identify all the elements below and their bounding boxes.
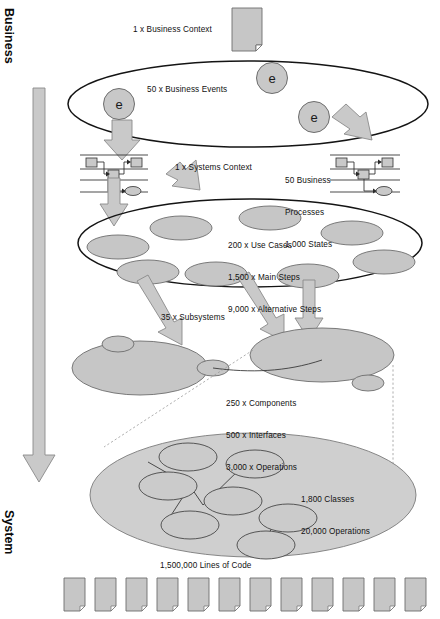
document-icon [250,578,271,611]
label-business-processes-line2: Processes [285,208,332,219]
document-icon [405,578,426,611]
axis-label-system-sub: (60,000 pages) [0,490,29,576]
label-subsystems: 35 x Subsystems [161,313,225,324]
label-classes-line1: 1,800 Classes [301,495,370,506]
document-icon [312,578,333,611]
event-to-process-arrow-right [332,104,372,140]
label-components-line3: 3,000 x Operations [226,463,297,474]
label-business-events: 50 x Business Events [147,85,227,96]
label-lines-of-code: 1,500,000 Lines of Code [160,561,252,572]
business-context-document-icon [232,8,262,51]
business-event-token: e [298,101,330,133]
business-to-system-arrow [23,88,55,482]
label-business-context: 1 x Business Context [133,25,212,36]
business-process-workflow-icon [330,155,400,196]
document-icon [95,578,116,611]
business-event-token: e [103,88,135,120]
document-icon [281,578,302,611]
document-icon [157,578,178,611]
business-event-token: e [256,62,288,94]
document-icon [343,578,364,611]
label-use-cases-line2: 1,500 x Main Steps [228,273,321,284]
business-event-token-label: e [115,97,122,112]
document-icon [374,578,395,611]
label-classes: 1,800 Classes 20,000 Operations [301,474,370,559]
subsystem-left [72,336,229,395]
label-use-cases: 200 x Use Cases 1,500 x Main Steps 9,000… [228,220,321,337]
label-business-processes-line1: 50 Business [285,176,332,187]
document-icon [126,578,147,611]
axis-label-business-line2: (1 page) [0,8,1,56]
document-icon [219,578,240,611]
usecase-to-subsystem-arrow-1 [137,275,182,345]
code-document-row [64,578,426,611]
document-icon [64,578,85,611]
process-to-usecase-arrow-left [100,178,128,226]
label-components-line1: 250 x Components [226,399,297,410]
label-classes-line2: 20,000 Operations [301,527,370,538]
label-components-line2: 500 x Interfaces [226,431,297,442]
diagram-canvas: .gf { fill:#c6c6c6; stroke:#6d6d6d; stro… [0,0,440,619]
event-to-process-arrow-left [104,120,140,160]
label-systems-context: 1 x Systems Context [175,163,252,174]
business-event-token-label: e [310,110,317,125]
label-use-cases-line1: 200 x Use Cases [228,241,321,252]
label-use-cases-line3: 9,000 x Alternative Steps [228,305,321,316]
axis-label-business-sub: (1 page) [0,8,29,56]
axis-label-system-line2: (60,000 pages) [0,490,1,576]
label-components: 250 x Components 500 x Interfaces 3,000 … [226,378,297,495]
document-icon [188,578,209,611]
business-event-token-label: e [268,71,275,86]
